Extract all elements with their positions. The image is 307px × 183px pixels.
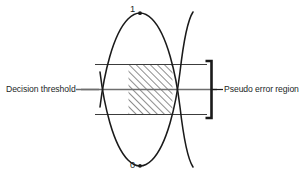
eye-diagram-figure: Decision threshold Pseudo error region 1…	[0, 0, 307, 183]
valley-marker-dot	[138, 164, 142, 168]
level-one-label: 1	[130, 4, 135, 14]
peak-marker-dot	[138, 11, 142, 15]
pseudo-error-region-label: Pseudo error region	[224, 84, 299, 94]
decision-threshold-label: Decision threshold	[6, 84, 76, 94]
level-zero-label: 0	[130, 160, 135, 170]
